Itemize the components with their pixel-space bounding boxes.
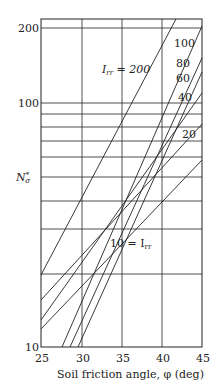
svg-text:20: 20 [182, 128, 196, 141]
chart: Irr = 200 100 80 60 40 20 10 = Irr 200 1… [0, 0, 221, 392]
svg-text:35: 35 [116, 352, 130, 365]
svg-text:60: 60 [176, 72, 190, 85]
svg-text:100: 100 [18, 97, 39, 110]
svg-text:10 = Irr: 10 = Irr [110, 237, 152, 251]
svg-text:100: 100 [174, 37, 195, 50]
svg-text:40: 40 [178, 91, 192, 104]
svg-text:Irr = 200: Irr = 200 [101, 63, 150, 77]
svg-text:Soil friction angle, φ (deg): Soil friction angle, φ (deg) [57, 368, 204, 381]
svg-text:N*σ: N*σ [15, 171, 30, 185]
svg-text:200: 200 [18, 22, 39, 35]
svg-text:45: 45 [196, 352, 210, 365]
svg-text:40: 40 [156, 352, 170, 365]
svg-text:30: 30 [76, 352, 90, 365]
svg-text:25: 25 [35, 352, 49, 365]
svg-text:80: 80 [176, 57, 190, 70]
